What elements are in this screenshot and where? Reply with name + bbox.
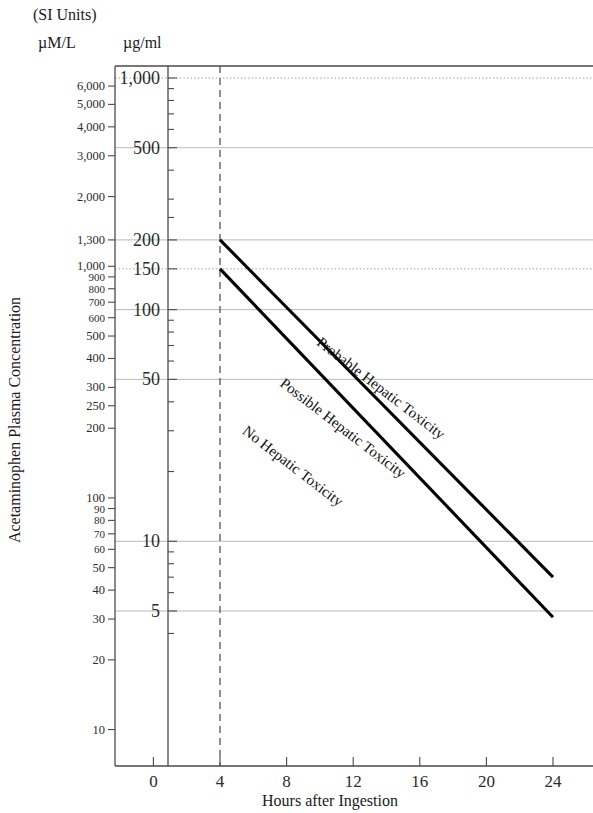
umol-tick-label-60: 60 — [94, 543, 106, 555]
ugml-tick-label-100: 100 — [133, 300, 160, 320]
x-tick-label-24: 24 — [545, 772, 563, 791]
x-tick-label-12: 12 — [345, 772, 362, 791]
umol-tick-label-2000: 2,000 — [77, 190, 105, 204]
umol-tick-label-900: 900 — [89, 271, 106, 283]
ugml-tick-label-500: 500 — [133, 138, 160, 158]
ugml-tick-label-150: 150 — [133, 259, 160, 279]
umol-tick-label-70: 70 — [94, 528, 106, 540]
umol-tick-label-4000: 4,000 — [77, 120, 105, 134]
umol-tick-label-80: 80 — [94, 514, 106, 526]
umol-tick-label-20: 20 — [93, 653, 106, 667]
umol-tick-label-50: 50 — [93, 561, 106, 575]
x-tick-label-8: 8 — [282, 772, 291, 791]
umol-tick-label-6000: 6,000 — [77, 79, 105, 93]
x-tick-label-4: 4 — [216, 772, 225, 791]
umol-tick-label-3000: 3,000 — [77, 149, 105, 163]
si-units-label: (SI Units) — [33, 6, 97, 24]
umol-tick-label-700: 700 — [89, 296, 106, 308]
umol-tick-label-400: 400 — [86, 351, 105, 365]
umol-tick-label-1300: 1,300 — [77, 233, 105, 247]
ugml-tick-label-200: 200 — [133, 230, 160, 250]
ugml-tick-label-5: 5 — [151, 601, 160, 621]
ugml-tick-label-1000: 1,000 — [120, 68, 161, 88]
umol-tick-label-5000: 5,000 — [77, 97, 105, 111]
x-tick-label-20: 20 — [478, 772, 495, 791]
umol-tick-label-200: 200 — [86, 421, 105, 435]
ugml-tick-label-10: 10 — [142, 531, 160, 551]
umol-tick-label-800: 800 — [89, 283, 106, 295]
umol-tick-label-600: 600 — [89, 312, 106, 324]
x-tick-label-16: 16 — [411, 772, 428, 791]
umol-tick-label-250: 250 — [86, 399, 105, 413]
umol-tick-label-500: 500 — [86, 329, 105, 343]
ug-per-ml-unit-label: µg/ml — [123, 34, 162, 52]
x-axis-title: Hours after Ingestion — [262, 792, 398, 810]
umol-tick-label-40: 40 — [93, 583, 106, 597]
umol-tick-label-30: 30 — [93, 612, 106, 626]
umol-per-liter-unit-label: µM/L — [38, 34, 76, 52]
umol-tick-label-10: 10 — [93, 723, 106, 737]
x-tick-label-0: 0 — [149, 772, 158, 791]
umol-tick-label-300: 300 — [86, 380, 105, 394]
y-axis-title: Acetaminophen Plasma Concentration — [6, 297, 24, 543]
ugml-tick-label-50: 50 — [142, 369, 160, 389]
nomogram-chart: (SI Units) µM/L µg/ml Acetaminophen Plas… — [0, 0, 593, 813]
umol-tick-label-90: 90 — [94, 503, 106, 515]
